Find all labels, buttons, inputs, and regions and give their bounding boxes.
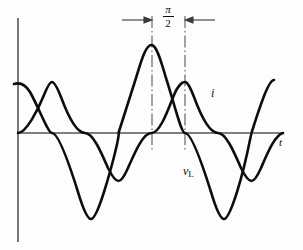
phase-fraction-label: π 2	[156, 4, 180, 29]
arrow-right-head	[185, 17, 193, 23]
waveform-figure: π 2 i vL t	[0, 0, 303, 250]
arrow-left-head	[144, 17, 152, 23]
waveform-canvas	[0, 0, 303, 250]
x-axis-label: t	[279, 136, 282, 148]
curve-label-i: i	[211, 86, 214, 101]
curve-voltage-vl	[14, 45, 274, 219]
curve-label-vl-subscript: L	[188, 169, 194, 179]
curve-label-vl: vL	[183, 164, 194, 179]
phase-numerator: π	[156, 4, 180, 16]
phase-denominator: 2	[156, 17, 180, 29]
